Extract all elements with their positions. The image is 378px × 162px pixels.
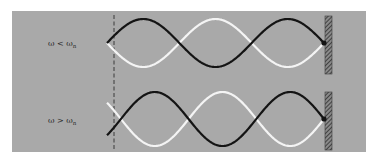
bottom-condition-label: ω > ωn bbox=[48, 116, 77, 126]
top-condition-label-sub: n bbox=[73, 43, 77, 49]
standing-wave-diagram: ω < ωn ω > ωn bbox=[0, 0, 378, 162]
top-attachment-point bbox=[321, 40, 326, 45]
bottom-condition-label-sub: n bbox=[73, 120, 77, 126]
bottom-condition-label-main: ω > ω bbox=[48, 116, 73, 125]
bottom-wall-icon bbox=[325, 92, 332, 150]
bottom-attachment-point bbox=[321, 116, 326, 121]
top-wall-icon bbox=[325, 16, 332, 74]
top-condition-label-main: ω < ω bbox=[48, 39, 73, 48]
top-condition-label: ω < ωn bbox=[48, 39, 77, 49]
